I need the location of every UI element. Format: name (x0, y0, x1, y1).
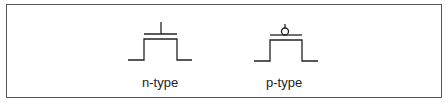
transistor-symbols (0, 0, 448, 110)
p-type-transistor-icon (254, 24, 318, 61)
p-type-label: p-type (266, 75, 302, 90)
n-type-transistor-icon (128, 22, 192, 60)
n-type-label: n-type (142, 75, 178, 90)
